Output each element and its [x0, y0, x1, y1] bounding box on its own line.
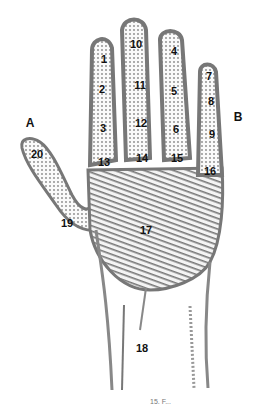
region-label-4: 4	[171, 46, 177, 57]
region-label-10: 10	[130, 39, 142, 50]
region-label-19: 19	[61, 218, 73, 229]
region-label-16: 16	[204, 166, 216, 177]
region-label-3: 3	[100, 123, 106, 134]
region-label-9: 9	[209, 129, 215, 140]
region-label-20: 20	[31, 149, 43, 160]
region-label-6: 6	[173, 124, 179, 135]
region-label-1: 1	[101, 54, 107, 65]
side-label-a: A	[26, 117, 35, 129]
caption: 15. F...	[150, 398, 171, 404]
region-label-12: 12	[135, 118, 147, 129]
region-label-8: 8	[208, 96, 214, 107]
region-label-7: 7	[206, 71, 212, 82]
region-label-17: 17	[140, 225, 152, 236]
region-label-18: 18	[136, 343, 148, 354]
region-label-2: 2	[99, 84, 105, 95]
region-label-5: 5	[171, 86, 177, 97]
region-label-14: 14	[136, 153, 148, 164]
region-label-13: 13	[98, 157, 110, 168]
side-label-b: B	[234, 111, 243, 123]
region-label-15: 15	[171, 153, 183, 164]
hand-illustration	[0, 0, 258, 404]
region-label-11: 11	[134, 80, 146, 91]
